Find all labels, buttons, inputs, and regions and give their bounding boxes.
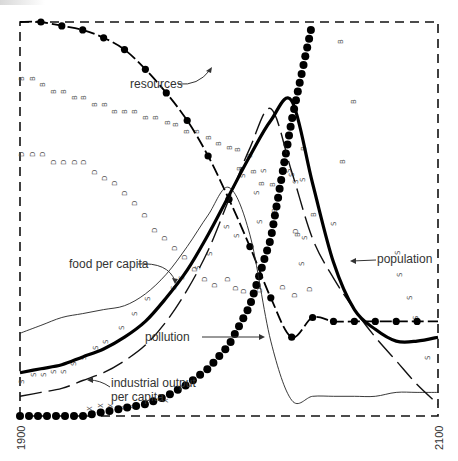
- marker-d: D: [232, 286, 240, 291]
- marker-d: D: [161, 236, 169, 241]
- resources-dot: [58, 22, 65, 29]
- marker-b: B: [29, 76, 37, 81]
- marker-s: S: [299, 177, 307, 182]
- x-tick-1900: 1900: [15, 426, 27, 450]
- marker-s: S: [30, 372, 38, 377]
- marker-s: S: [102, 339, 110, 344]
- pollution-dot: [268, 229, 276, 237]
- marker-d: D: [18, 152, 26, 157]
- marker-b: B: [39, 82, 47, 87]
- pollution-dot: [301, 52, 309, 60]
- pollution-dot: [43, 412, 51, 420]
- marker-s: S: [50, 369, 58, 374]
- pollution-dot: [300, 61, 308, 69]
- pollution-dot: [305, 35, 313, 43]
- marker-d: D: [29, 152, 37, 157]
- population-label: population: [377, 252, 432, 266]
- pollution-dot: [79, 412, 87, 420]
- pollution-dot: [215, 352, 223, 360]
- marker-s: S: [144, 296, 152, 301]
- marker-s: S: [40, 372, 48, 377]
- marker-b: B: [131, 109, 139, 114]
- marker-b: B: [250, 169, 258, 174]
- marker-b: B: [101, 102, 109, 107]
- pollution-dot: [209, 359, 217, 367]
- marker-d: D: [201, 277, 209, 282]
- marker-d: D: [291, 293, 299, 298]
- pollution-dot: [88, 410, 96, 418]
- pollution-dot: [97, 409, 105, 417]
- pollution-dot: [269, 220, 277, 228]
- pollution-dot: [276, 185, 284, 193]
- marker-b: B: [111, 109, 119, 114]
- marker-b: B: [121, 109, 129, 114]
- marker-d: D: [91, 170, 99, 175]
- resources-dot: [100, 34, 107, 41]
- marker-b: B: [80, 95, 88, 100]
- marker-b: B: [60, 89, 68, 94]
- marker-d: D: [211, 283, 219, 288]
- marker-d: D: [111, 181, 119, 186]
- series-population: [20, 98, 438, 373]
- marker-b: B: [152, 115, 160, 120]
- marker-b: B: [142, 115, 150, 120]
- pollution-dot: [166, 390, 174, 398]
- chart: BBBBBBBBBBBBBBBBBBBBBBBBBBBBBBBBBBDDDDDD…: [0, 0, 458, 461]
- marker-s: S: [301, 235, 309, 240]
- marker-s: S: [233, 233, 241, 238]
- pollution-dot: [298, 70, 306, 78]
- pollution-dot: [244, 306, 252, 314]
- pollution-dot: [277, 176, 285, 184]
- pollution-dot: [263, 247, 271, 255]
- marker-b: B: [339, 159, 347, 164]
- resources-dot: [267, 294, 274, 301]
- resources-dot: [414, 318, 421, 325]
- marker-d: D: [80, 160, 88, 165]
- pollution-dot: [250, 289, 258, 297]
- pollution-dot: [266, 238, 274, 246]
- resources-dot: [372, 318, 379, 325]
- resources-line: [20, 22, 438, 338]
- series-food-per-capita: [20, 187, 438, 403]
- resources-dot: [184, 117, 191, 124]
- marker-s: S: [298, 261, 306, 266]
- marker-d: D: [121, 191, 129, 196]
- marker-s: S: [18, 379, 26, 384]
- pollution-label: pollution: [145, 330, 190, 344]
- resources-dot: [37, 18, 44, 25]
- pollution-dot: [235, 322, 243, 330]
- industrial-output-label-line1: industrial output: [111, 376, 196, 390]
- marker-d: D: [181, 255, 189, 260]
- marker-s: S: [253, 190, 261, 195]
- pollution-dot: [260, 255, 268, 263]
- pollution-dot: [52, 412, 60, 420]
- pollution-dot: [303, 44, 311, 52]
- resources-dot: [121, 46, 128, 53]
- background-markers: BBBBBBBBBBBBBBBBBBBBBBBBBBBBBBBBBBDDDDDD…: [18, 39, 432, 411]
- resources-arrowhead: [206, 67, 212, 73]
- marker-s: S: [396, 272, 404, 277]
- marker-b: B: [215, 141, 223, 146]
- marker-b: B: [350, 99, 358, 104]
- marker-d: D: [240, 289, 248, 294]
- resources-dot: [288, 334, 295, 341]
- resources-dot: [330, 318, 337, 325]
- marker-s: S: [406, 295, 414, 300]
- marker-d: D: [306, 287, 314, 292]
- resources-dot: [393, 318, 400, 325]
- marker-b: B: [18, 76, 26, 81]
- marker-b: B: [164, 120, 172, 125]
- marker-b: B: [91, 102, 99, 107]
- pollution-dot: [287, 123, 295, 131]
- industrial-output-label-line2: per capita: [111, 390, 164, 404]
- pollution-dot: [274, 194, 282, 202]
- marker-b: B: [258, 181, 266, 186]
- pollution-dot: [16, 412, 24, 420]
- pollution-dot: [271, 211, 279, 219]
- marker-s: S: [424, 355, 432, 360]
- marker-d: D: [131, 201, 139, 206]
- marker-d: D: [60, 160, 68, 165]
- marker-d: D: [39, 152, 47, 157]
- series-resources: [20, 18, 438, 340]
- resources-dot: [309, 314, 316, 321]
